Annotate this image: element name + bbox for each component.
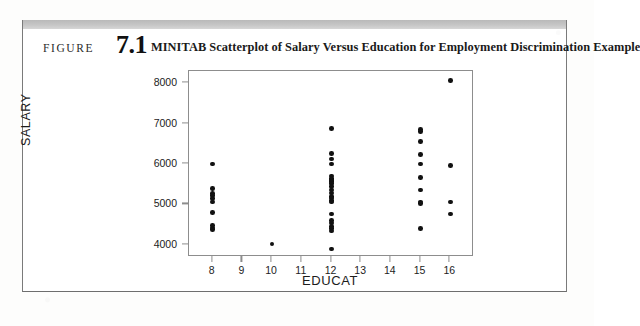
x-tick-mark — [389, 256, 390, 262]
figure-number: 7.1 — [116, 30, 147, 60]
x-tick-mark — [271, 256, 272, 262]
figure-label-word: FIGURE — [43, 42, 94, 54]
x-tick-label: 11 — [295, 264, 306, 276]
y-tick-label: 8000 — [154, 76, 177, 88]
data-point — [210, 162, 215, 167]
figure-box: FIGURE 7.1 MINITAB Scatterplot of Salary… — [22, 20, 567, 292]
data-point — [329, 126, 334, 131]
data-point — [329, 229, 334, 234]
scatterplot-chart: SALARY EDUCAT 40005000600070008000 89101… — [23, 62, 568, 290]
data-point — [448, 78, 453, 83]
data-point — [418, 152, 423, 157]
x-tick-label: 15 — [414, 264, 426, 276]
data-point — [418, 129, 423, 134]
x-tick-mark — [241, 256, 242, 262]
y-tick-label: 5000 — [154, 197, 177, 209]
figure-header-band — [23, 20, 566, 29]
x-tick-mark — [360, 256, 361, 262]
x-tick-label: 8 — [209, 264, 215, 276]
x-tick-label: 14 — [384, 264, 396, 276]
x-tick-mark — [330, 256, 331, 262]
x-tick-mark — [449, 256, 450, 262]
data-point — [210, 227, 215, 232]
plot-frame — [188, 70, 473, 256]
data-point — [418, 226, 423, 231]
data-point — [210, 186, 215, 191]
x-tick-mark — [211, 256, 212, 262]
data-point — [418, 139, 423, 144]
data-point — [448, 200, 453, 205]
data-point — [418, 201, 423, 206]
x-tick-mark — [300, 256, 301, 262]
data-point — [329, 151, 334, 156]
data-point — [329, 157, 334, 162]
x-tick-label: 9 — [239, 264, 245, 276]
figure-caption-row: FIGURE 7.1 MINITAB Scatterplot of Salary… — [23, 34, 566, 60]
x-tick-label: 16 — [443, 264, 455, 276]
y-tick-label: 7000 — [154, 117, 177, 129]
y-tick-label: 6000 — [154, 157, 177, 169]
data-point — [418, 162, 423, 167]
data-point — [210, 210, 215, 215]
x-tick-label: 10 — [265, 264, 277, 276]
data-point — [329, 247, 334, 252]
data-point — [418, 188, 423, 193]
data-point — [329, 200, 334, 205]
data-point — [329, 212, 334, 217]
x-tick-label: 12 — [325, 264, 337, 276]
data-point — [448, 163, 453, 168]
data-point — [210, 200, 215, 205]
y-axis-label: SALARY — [19, 93, 33, 146]
figure-title: MINITAB Scatterplot of Salary Versus Edu… — [151, 40, 640, 55]
data-point — [448, 212, 453, 217]
x-tick-mark — [419, 256, 420, 262]
data-point — [418, 175, 423, 180]
y-tick-label: 4000 — [154, 238, 177, 250]
x-tick-label: 13 — [354, 264, 366, 276]
data-point — [270, 242, 275, 247]
data-point — [329, 162, 334, 167]
